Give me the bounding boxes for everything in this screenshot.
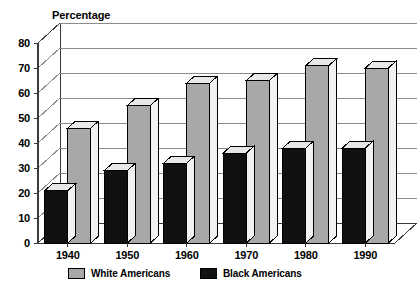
legend-swatch-white-americans xyxy=(68,268,85,279)
x-axis-tick-1970: 1970 xyxy=(224,249,268,261)
x-axis-tick-1990: 1990 xyxy=(343,249,387,261)
legend-item-white-americans[interactable]: White Americans xyxy=(68,266,170,280)
x-axis-tick-1950: 1950 xyxy=(105,249,149,261)
legend-swatch-black-americans xyxy=(200,268,217,279)
chart-legend: White Americans Black Americans xyxy=(0,266,417,290)
x-axis-tick-1960: 1960 xyxy=(165,249,209,261)
percentage-bar-chart: Percentage 01020304050607080 19401950196… xyxy=(0,0,417,292)
legend-item-black-americans[interactable]: Black Americans xyxy=(200,266,302,280)
x-axis-tick-1980: 1980 xyxy=(284,249,328,261)
legend-label-black-americans: Black Americans xyxy=(223,268,302,279)
legend-label-white-americans: White Americans xyxy=(91,268,170,279)
x-axis-tick-1940: 1940 xyxy=(46,249,90,261)
